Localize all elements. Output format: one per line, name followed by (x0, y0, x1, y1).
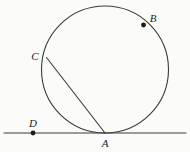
point-label-d: D (29, 118, 37, 129)
geometry-figure: A B C D (0, 0, 190, 152)
point-label-a: A (102, 138, 109, 149)
point-dot-d (31, 131, 36, 136)
point-dot-b (141, 23, 146, 28)
chord-c-a (47, 58, 106, 134)
point-label-b: B (150, 13, 157, 24)
main-circle (42, 6, 169, 133)
point-label-c: C (31, 51, 38, 62)
geometry-canvas (0, 0, 190, 152)
